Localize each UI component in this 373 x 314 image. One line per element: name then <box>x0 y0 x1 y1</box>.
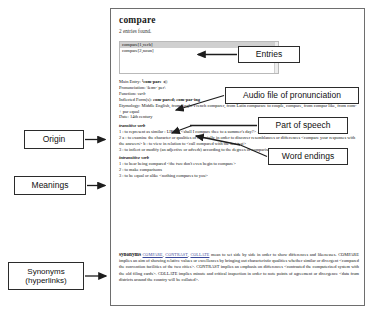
etymology-label: Etymology: <box>119 103 140 108</box>
function-value: verb <box>137 91 145 96</box>
callout-audio-file: Audio file of pronunciation <box>225 87 359 104</box>
synonym-link-collate[interactable]: COLLATE <box>190 252 209 257</box>
date-label: Date: <box>119 114 129 119</box>
main-entry-value: ¹com·pare <box>142 79 162 84</box>
synonym-link-compare[interactable]: COMPARE <box>143 252 163 257</box>
sense-item: 3 : to be equal or alike <nothing compar… <box>119 173 359 179</box>
callout-synonyms-line1: Synonyms <box>27 267 64 276</box>
callout-synonyms-line2: (hyperlinks) <box>25 276 66 285</box>
date-value: 14th century <box>130 114 153 119</box>
synonyms-heading: synonyms <box>119 251 141 257</box>
callout-part-of-speech: Part of speech <box>258 117 348 134</box>
callout-meanings: Meanings <box>14 176 86 195</box>
annotated-screenshot: compare 2 entries found. compare[1,verb]… <box>0 0 373 314</box>
callout-word-endings: Word endings <box>268 148 348 165</box>
synonym-link-contrast[interactable]: CONTRAST <box>165 252 187 257</box>
etymology-row: Etymology: Middle English, from Anglo-Fr… <box>119 103 357 115</box>
inflected-value: com·pared; com·par·ing <box>153 97 200 102</box>
sense-item: 2 a : to examine the character or qualit… <box>119 135 359 147</box>
function-label: Function: <box>119 91 136 96</box>
results-count: 2 entries found. <box>119 28 360 34</box>
synonyms-section: synonyms COMPARE, CONTRAST, COLLATE mean… <box>119 251 359 283</box>
audio-speaker-icon[interactable]: ◂)) <box>163 79 168 84</box>
inflected-label: Inflected Form(s): <box>119 97 152 102</box>
pronunciation-value: \kəm-ˈper\ <box>147 85 166 90</box>
pronunciation-label: Pronunciation: <box>119 85 146 90</box>
etymology-value: Middle English, from Anglo-French compar… <box>119 103 356 114</box>
main-entry-label: Main Entry: <box>119 79 141 84</box>
callout-origin: Origin <box>24 130 84 149</box>
callout-synonyms: Synonyms (hyperlinks) <box>8 262 84 290</box>
callout-entries: Entries <box>238 46 300 63</box>
page-title: compare <box>119 15 360 25</box>
